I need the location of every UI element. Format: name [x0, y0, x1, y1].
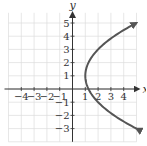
y-axis-label: y [69, 0, 77, 12]
x-tick-label: 1 [82, 91, 88, 102]
x-axis-label: x [143, 83, 147, 96]
y-tick-label: 4 [63, 31, 69, 42]
y-tick-label: −2 [55, 110, 70, 121]
y-tick-label: 3 [63, 44, 69, 55]
y-tick-label: 1 [63, 70, 69, 81]
x-tick-label: 3 [108, 91, 114, 102]
x-tick-label: 4 [121, 91, 127, 102]
y-tick-label: 5 [63, 18, 69, 29]
y-tick-label: 2 [63, 57, 69, 68]
graph: −4−3−2−11234−3−2−112345 x y [0, 0, 146, 146]
y-tick-label: −1 [55, 97, 70, 108]
y-tick-label: −3 [55, 123, 70, 134]
